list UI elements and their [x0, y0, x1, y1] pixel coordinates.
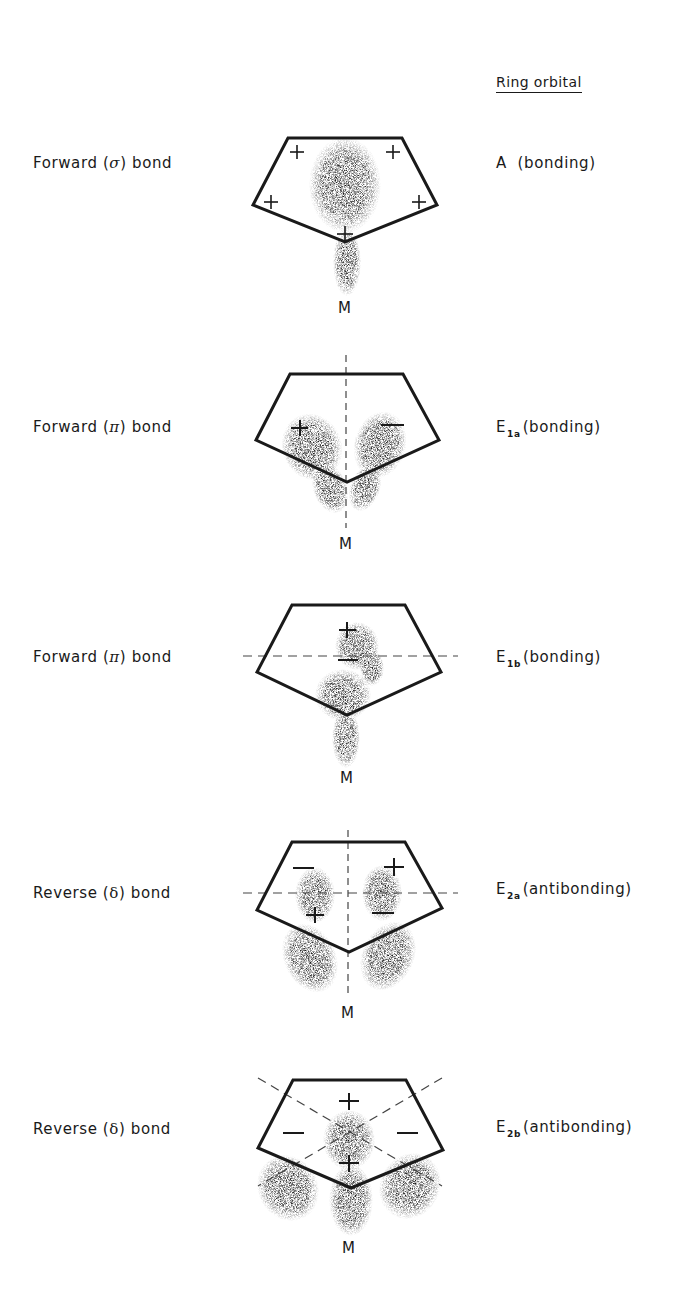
electron-density — [245, 1110, 453, 1236]
orbital-diagrams — [0, 0, 686, 1312]
ring-pentagon — [256, 374, 439, 482]
panel-e2b-antibonding — [245, 1078, 453, 1236]
electron-density — [271, 865, 427, 1002]
panel-e2a-antibonding — [243, 830, 458, 1002]
electron-density — [309, 137, 381, 296]
panel-e1a-bonding — [256, 355, 439, 528]
panel-e1b-bonding — [243, 605, 458, 768]
panel-a-bonding — [253, 137, 437, 296]
electron-density — [315, 622, 384, 768]
ring-pentagon — [257, 842, 442, 952]
